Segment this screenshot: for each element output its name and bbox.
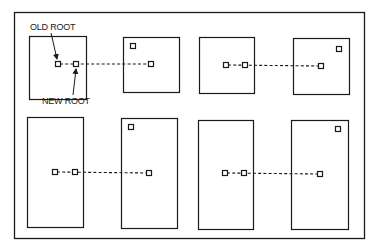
new-root-arrow xyxy=(73,69,76,95)
node-square xyxy=(129,125,134,130)
node-square xyxy=(73,170,78,175)
panel-top-1 xyxy=(30,37,87,100)
node-square xyxy=(223,171,228,176)
node-square xyxy=(319,64,324,69)
node-square xyxy=(243,63,248,68)
node-square xyxy=(242,171,247,176)
connector-bottom-left xyxy=(57,172,147,173)
old-root-node xyxy=(56,62,61,67)
node-square xyxy=(149,62,154,67)
connector-top-right xyxy=(228,65,319,66)
node-square xyxy=(336,127,341,132)
node-square xyxy=(318,172,323,177)
node-square xyxy=(131,44,136,49)
new-root-label: NEW ROOT xyxy=(42,96,91,106)
root-migration-diagram: OLD ROOT NEW ROOT xyxy=(0,0,375,247)
connector-bottom-right xyxy=(227,173,318,174)
old-root-label: OLD ROOT xyxy=(30,22,76,32)
node-square xyxy=(337,47,342,52)
new-root-node xyxy=(74,62,79,67)
outer-frame xyxy=(15,13,365,239)
node-square xyxy=(53,170,58,175)
node-square xyxy=(224,63,229,68)
node-square xyxy=(147,171,152,176)
